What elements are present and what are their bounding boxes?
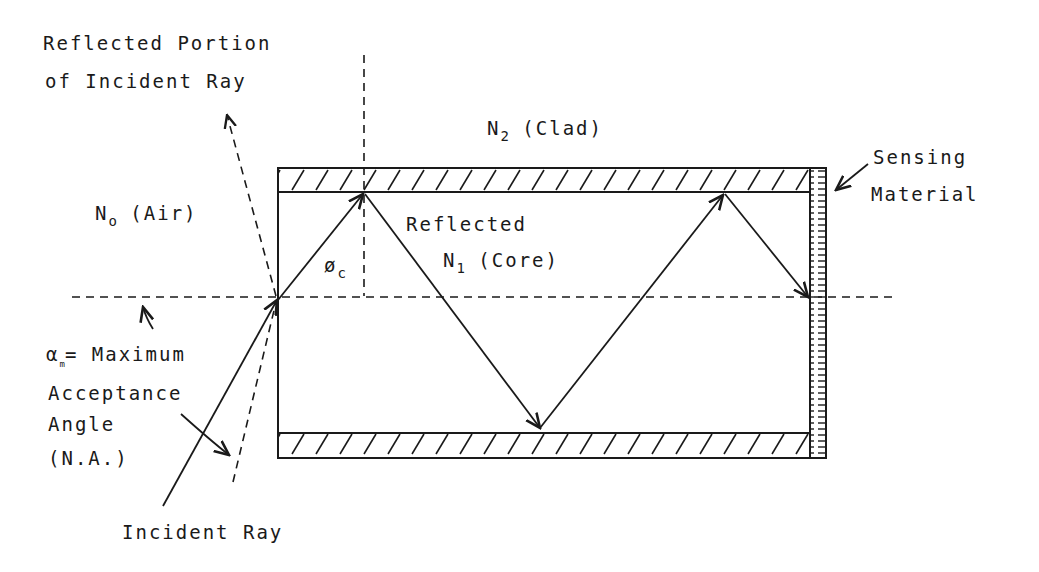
clad-text: (Clad) — [522, 117, 603, 139]
core-label: N1 (Core) — [443, 251, 559, 270]
acceptance-pointer-arrow — [181, 414, 229, 455]
bottom-clad-layer — [278, 433, 810, 458]
core-ray-1 — [278, 194, 363, 300]
critical-angle-label: øc — [324, 256, 346, 275]
air-label: No (Air) — [95, 204, 198, 223]
acceptance-cone-line — [233, 302, 276, 482]
top-clad-layer — [278, 168, 810, 192]
sensing-material-strip — [810, 168, 826, 458]
reflected-portion-ray — [227, 115, 276, 296]
axis-pointer-arrow — [143, 307, 153, 329]
critical-angle-symbol: ø — [324, 254, 337, 276]
clad-symbol: N — [487, 117, 500, 139]
sensing-label-line1: Sensing — [873, 148, 967, 167]
air-subscript: o — [108, 213, 116, 229]
acceptance-label-line3: Angle — [48, 415, 115, 434]
alpha-symbol: α — [46, 343, 59, 365]
air-symbol: N — [95, 202, 108, 224]
acceptance-line1-rest: = Maximum — [65, 343, 186, 365]
core-symbol: N — [443, 249, 456, 271]
fiber-optic-diagram: Reflected Portion of Incident Ray N2 (Cl… — [0, 0, 1039, 572]
reflected-portion-label-line1: Reflected Portion — [43, 34, 271, 53]
incident-ray-label: Incident Ray — [122, 523, 283, 542]
sensing-label-line2: Material — [871, 185, 979, 204]
acceptance-label-line1: αm= Maximum — [46, 345, 186, 364]
sensing-pointer-arrow — [836, 164, 868, 190]
clad-subscript: 2 — [500, 128, 508, 144]
core-text: (Core) — [478, 249, 559, 271]
core-ray-4 — [725, 194, 808, 297]
critical-angle-subscript: c — [337, 265, 345, 281]
reflected-portion-label-line2: of Incident Ray — [45, 72, 247, 91]
air-text: (Air) — [130, 202, 197, 224]
core-subscript: 1 — [456, 260, 464, 276]
acceptance-label-line2: Acceptance — [48, 384, 182, 403]
core-ray-3 — [540, 195, 723, 428]
clad-label: N2 (Clad) — [487, 119, 603, 138]
reflected-label: Reflected — [406, 215, 527, 234]
acceptance-label-line4: (N.A.) — [48, 449, 129, 468]
alpha-subscript: m — [59, 359, 64, 369]
